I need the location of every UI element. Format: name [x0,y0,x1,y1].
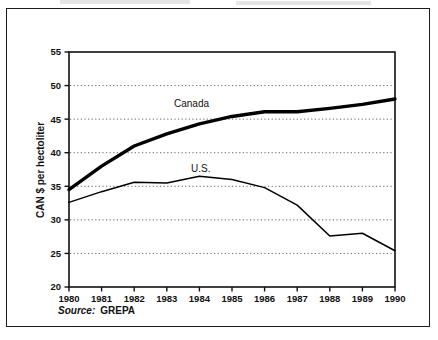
y-axis-tick-label: 50 [50,80,61,91]
y-axis-tick-label: 20 [50,281,61,292]
source-note-value: GREPA [100,305,135,316]
y-axis-tick-label: 45 [50,114,61,125]
series-label-canada: Canada [174,98,209,109]
series-line-us [69,176,395,251]
x-axis-tick-label: 1988 [319,293,340,304]
series-line-canada [69,99,395,190]
y-axis-tick-label: 30 [50,214,61,225]
x-axis-tick-labels-group: 1980198119821983198419851986198719881989… [58,293,405,304]
x-axis-tick-label: 1980 [58,293,79,304]
y-axis-title: CAN $ per hectoliter [35,122,46,218]
x-axis-tick-label: 1981 [91,293,113,304]
x-axis-tick-label: 1989 [352,293,373,304]
x-axis-tick-label: 1984 [189,293,211,304]
chart-svg: 2025303540455055 19801981198219831984198… [0,0,438,340]
source-note: Source:GREPA [58,305,135,316]
plot-area-frame [69,52,395,287]
y-axis-tick-label: 25 [50,248,61,259]
chart-page: 2025303540455055 19801981198219831984198… [0,0,438,340]
x-axis-tick-label: 1982 [124,293,145,304]
y-axis-tick-label: 35 [50,181,61,192]
series-label-us: U.S. [191,163,210,174]
x-axis-tick-label: 1990 [384,293,405,304]
x-axis-tick-label: 1983 [156,293,177,304]
x-axis-tick-label: 1987 [287,293,308,304]
y-axis-tick-label: 55 [50,46,61,57]
x-axis-tick-label: 1986 [254,293,275,304]
y-axis-tick-labels-group: 2025303540455055 [50,46,61,292]
line-chart-figure: 2025303540455055 19801981198219831984198… [0,0,438,340]
gridlines-group [70,86,394,254]
source-note-label: Source: [58,305,95,316]
x-axis-tick-label: 1985 [221,293,243,304]
y-axis-tick-label: 40 [50,147,61,158]
